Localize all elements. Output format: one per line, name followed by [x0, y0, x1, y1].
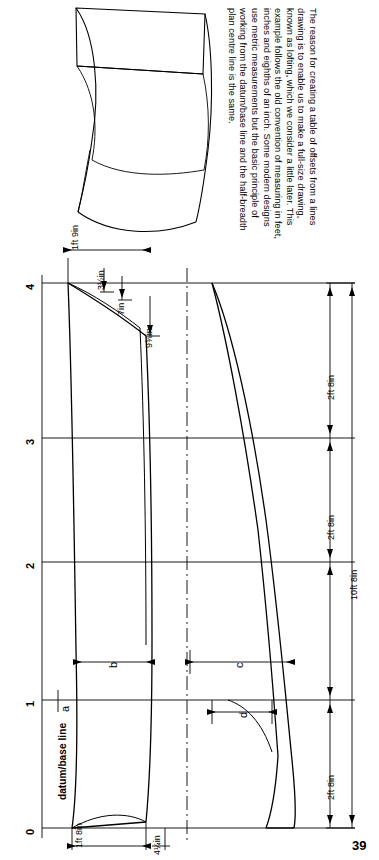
station-grid — [42, 283, 355, 828]
book-page: The reason for creating a table of offse… — [0, 0, 379, 860]
station-label-4: 4 — [24, 284, 36, 290]
station4-offset-detail — [63, 247, 160, 336]
dimension-2ft8in-bottom: 2ft 8in — [326, 775, 336, 800]
dimension-2ft8in-mid: 2ft 8in — [326, 515, 336, 540]
offset-3half-in-label: 3½in — [96, 270, 106, 290]
station-label-2: 2 — [24, 563, 36, 569]
sheer-plan-hull — [68, 283, 152, 828]
dimension-2ft8in-top: 2ft 8in — [326, 375, 336, 400]
offset-9five8-in-label: 9⅝in — [144, 328, 154, 348]
datum-base-line-label: datum/base line — [58, 723, 68, 800]
offset-arrows — [58, 650, 295, 724]
station-label-3: 3 — [24, 439, 36, 445]
station-label-0: 0 — [24, 829, 36, 835]
arrow-label-a: a — [60, 706, 70, 712]
dimension-chain-right — [326, 283, 355, 828]
station-label-1: 1 — [24, 701, 36, 707]
half-breadth-plan-hull — [212, 283, 295, 828]
arrow-label-c: c — [234, 662, 244, 668]
offset-1ft9in-label: 1ft 9in — [70, 225, 80, 250]
page-number: 39 — [352, 838, 366, 853]
offset-4quarter-in-label: 4¼in — [152, 835, 162, 855]
arrow-label-d: d — [238, 712, 248, 718]
offset-1ft8in-label: 1ft 8in — [74, 823, 84, 848]
arrow-label-b: b — [108, 662, 118, 668]
hull-perspective-sketch — [76, 8, 212, 231]
dimension-total-10ft8in: 10ft 8in — [349, 570, 359, 600]
offset-7in-label: 7in — [116, 303, 126, 315]
caption-paragraph: The reason for creating a table of offse… — [225, 8, 318, 240]
